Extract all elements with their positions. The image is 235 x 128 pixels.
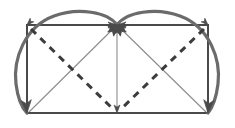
figure-canvas bbox=[0, 0, 235, 128]
geometric-diagram-svg bbox=[0, 0, 235, 128]
